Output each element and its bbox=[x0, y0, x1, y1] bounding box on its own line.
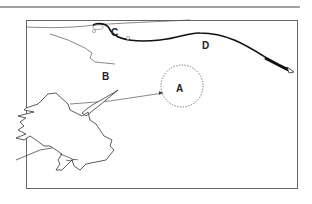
hand-outline bbox=[16, 90, 118, 170]
stroke-curve-cd-thick bbox=[265, 58, 289, 70]
label-d: D bbox=[202, 40, 209, 51]
loop-c bbox=[93, 25, 103, 30]
label-b: B bbox=[102, 71, 109, 82]
stroke-curve-cd bbox=[93, 24, 292, 71]
label-c: C bbox=[111, 27, 118, 38]
control-point-2 bbox=[126, 36, 129, 39]
label-a: A bbox=[176, 83, 183, 94]
diagram-canvas: C D B A bbox=[0, 0, 312, 204]
control-point-1 bbox=[92, 29, 95, 32]
stylus-pointer-line bbox=[70, 93, 163, 104]
pen-tip-icon bbox=[287, 67, 294, 73]
outline-b bbox=[50, 34, 115, 64]
